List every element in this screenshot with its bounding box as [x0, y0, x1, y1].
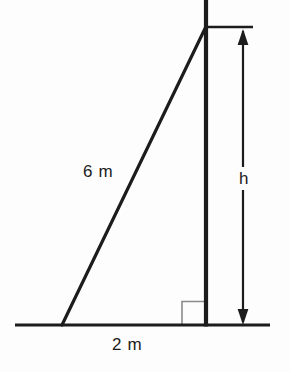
height-arrow-down-icon: [238, 309, 249, 325]
geometry-diagram: 6 m 2 m h: [0, 0, 290, 372]
height-label: h: [236, 167, 251, 190]
height-arrow-up-icon: [238, 29, 249, 45]
base-length-label: 2 m: [112, 336, 142, 353]
right-angle-marker: [182, 302, 205, 326]
hypotenuse-length-label: 6 m: [83, 163, 113, 180]
